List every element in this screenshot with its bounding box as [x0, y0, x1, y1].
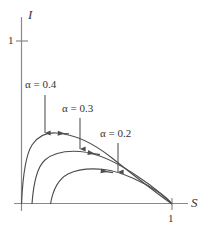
annotation-alpha-0-2: α = 0.2 [100, 128, 131, 139]
flow-arrow-alpha-0-4 [58, 133, 69, 134]
annotation-alpha-0-4: α = 0.4 [25, 79, 56, 90]
phase-plane-plot [0, 0, 206, 238]
axis-lines [14, 17, 188, 211]
trajectory-curve-alpha-0-3 [32, 151, 172, 204]
trajectory-curves [22, 133, 173, 204]
y-axis-tick-label-1: 1 [8, 35, 14, 46]
x-axis-tick-label-1: 1 [168, 213, 174, 224]
sir-phase-plane-figure: I S 1 1 α = 0.4 α = 0.3 α = 0.2 [0, 0, 206, 238]
trajectory-curve-alpha-0-2 [51, 169, 173, 204]
x-axis-label: S [191, 196, 198, 209]
y-axis-label: I [28, 8, 32, 21]
annotation-alpha-0-3: α = 0.3 [62, 103, 93, 114]
